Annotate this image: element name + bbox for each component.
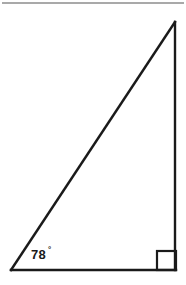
angle-label-degree-symbol: ° — [48, 245, 51, 254]
figure-background — [0, 0, 186, 285]
angle-label-value: 78 — [31, 247, 46, 262]
figure-container: 78 ° — [0, 0, 186, 285]
right-triangle-diagram: 78 ° — [0, 0, 186, 285]
